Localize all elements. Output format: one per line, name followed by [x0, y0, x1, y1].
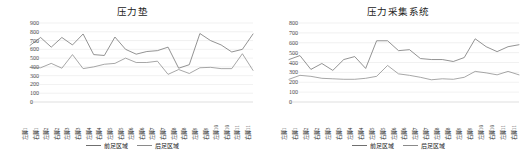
x-axis-tick-label: 左脚5 — [108, 127, 113, 140]
legend-item[interactable]: 后足区域 — [403, 141, 445, 150]
x-axis-tick-label: 右脚9 — [203, 127, 208, 140]
legend-line-swatch — [86, 145, 101, 146]
chart-page: 压力垫 0100200300400500600700800900 左脚1右脚1左… — [0, 0, 531, 160]
series-line-forefoot — [289, 39, 519, 71]
x-axis-tick-label: 右脚7 — [161, 127, 166, 140]
x-axis-tick-label: 右脚11 — [512, 125, 517, 140]
x-axis-tick-label: 右脚5 — [118, 127, 123, 140]
page-title-right: 压力采集系统 — [265, 4, 531, 18]
page-title-left: 压力垫 — [0, 4, 265, 18]
x-axis-tick-label: 右脚8 — [446, 127, 451, 140]
x-axis-tick-label: 左脚7 — [413, 127, 418, 140]
series-line-forefoot — [30, 34, 253, 69]
x-axis-tick-label: 左脚8 — [171, 127, 176, 140]
x-axis-tick-label: 左脚3 — [326, 127, 331, 140]
x-axis-tick-label: 右脚6 — [140, 127, 145, 140]
x-axis-tick-label: 左脚10 — [214, 125, 219, 140]
x-axis-labels-left: 左脚1右脚1左脚2右脚2左脚3右脚3左脚4右脚4左脚5右脚5左脚6右脚6左脚7右… — [0, 106, 265, 140]
x-axis-tick-label: 左脚3 — [65, 127, 70, 140]
x-axis-tick-label: 左脚10 — [479, 125, 484, 140]
x-axis-tick-label: 右脚2 — [55, 127, 60, 140]
x-axis-tick-label: 左脚4 — [348, 127, 353, 140]
x-axis-tick-label: 左脚1 — [282, 127, 287, 140]
legend-left: 前足区域后足区域 — [0, 141, 265, 150]
legend-item-label: 后足区域 — [155, 141, 179, 150]
legend-item[interactable]: 后足区域 — [137, 141, 179, 150]
line-plot-right — [265, 20, 531, 108]
legend-line-swatch — [403, 145, 418, 146]
legend-item[interactable]: 前足区域 — [352, 141, 394, 150]
legend-item-label: 前足区域 — [104, 141, 128, 150]
x-axis-tick-label: 左脚6 — [129, 127, 134, 140]
pressure-mat-panel: 压力垫 0100200300400500600700800900 左脚1右脚1左… — [0, 0, 265, 160]
x-axis-tick-label: 左脚1 — [23, 127, 28, 140]
plot-area-left: 0100200300400500600700800900 — [0, 20, 265, 108]
x-axis-tick-label: 左脚8 — [435, 127, 440, 140]
x-axis-tick-label: 右脚2 — [315, 127, 320, 140]
x-axis-tick-label: 右脚1 — [293, 127, 298, 140]
x-axis-tick-label: 右脚11 — [246, 125, 251, 140]
series-line-hindfoot — [30, 54, 253, 75]
x-axis-tick-label: 右脚6 — [402, 127, 407, 140]
pressure-acquisition-panel: 压力采集系统 0100200300400500600700800 左脚1右脚1左… — [265, 0, 531, 160]
x-axis-tick-label: 右脚1 — [33, 127, 38, 140]
x-axis-tick-label: 右脚5 — [380, 127, 385, 140]
x-axis-tick-label: 左脚4 — [87, 127, 92, 140]
x-axis-tick-label: 左脚11 — [501, 125, 506, 140]
x-axis-tick-label: 右脚8 — [182, 127, 187, 140]
x-axis-tick-label: 右脚4 — [97, 127, 102, 140]
x-axis-tick-label: 右脚10 — [490, 125, 495, 140]
legend-line-swatch — [137, 145, 152, 146]
legend-line-swatch — [352, 145, 367, 146]
x-axis-labels-right: 左脚1右脚1左脚2右脚2左脚3右脚3左脚4右脚4左脚5右脚5左脚6右脚6左脚7右… — [265, 106, 531, 140]
x-axis-tick-label: 左脚11 — [235, 125, 240, 140]
x-axis-tick-label: 左脚6 — [391, 127, 396, 140]
x-axis-tick-label: 右脚9 — [468, 127, 473, 140]
x-axis-tick-label: 左脚7 — [150, 127, 155, 140]
x-axis-tick-label: 右脚7 — [424, 127, 429, 140]
legend-right: 前足区域后足区域 — [265, 141, 531, 150]
x-axis-tick-label: 右脚3 — [337, 127, 342, 140]
x-axis-tick-label: 左脚5 — [369, 127, 374, 140]
x-axis-tick-label: 左脚2 — [44, 127, 49, 140]
x-axis-tick-label: 右脚3 — [76, 127, 81, 140]
x-axis-tick-label: 右脚10 — [225, 125, 230, 140]
legend-item[interactable]: 前足区域 — [86, 141, 128, 150]
x-axis-tick-label: 左脚9 — [457, 127, 462, 140]
x-axis-tick-label: 左脚9 — [193, 127, 198, 140]
plot-area-right: 0100200300400500600700800 — [265, 20, 531, 108]
line-plot-left — [0, 20, 265, 108]
x-axis-tick-label: 右脚4 — [358, 127, 363, 140]
legend-item-label: 前足区域 — [370, 141, 394, 150]
x-axis-tick-label: 左脚2 — [304, 127, 309, 140]
legend-item-label: 后足区域 — [421, 141, 445, 150]
